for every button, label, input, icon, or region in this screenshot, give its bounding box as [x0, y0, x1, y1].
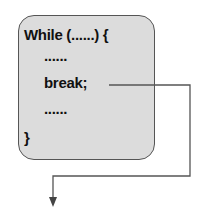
arrowhead-icon — [49, 197, 57, 207]
break-exit-arrow — [0, 0, 209, 216]
